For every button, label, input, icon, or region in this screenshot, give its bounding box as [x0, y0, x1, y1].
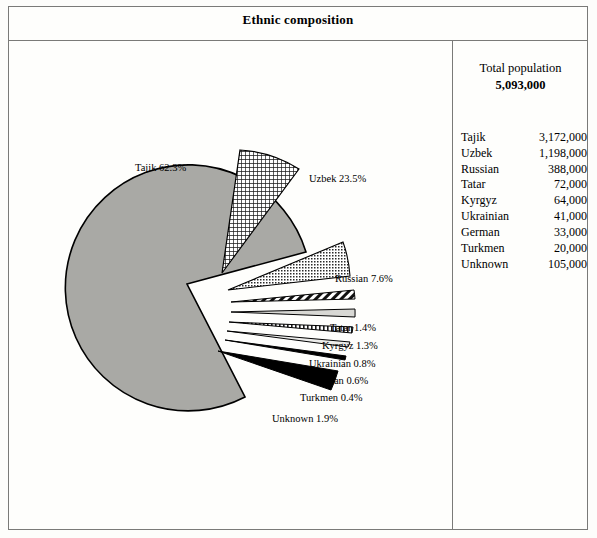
row-population: 20,000: [524, 241, 587, 257]
total-population-block: Total population 5,093,000: [453, 61, 588, 94]
row-population: 33,000: [524, 225, 587, 241]
table-row: Unknown 105,000: [461, 257, 587, 273]
population-table: Tajik 3,172,000 Uzbek 1,198,000 Russian …: [461, 130, 587, 272]
row-group-name: Ukrainian: [461, 209, 524, 225]
row-population: 41,000: [524, 209, 587, 225]
table-row: Tajik 3,172,000: [461, 130, 587, 146]
row-group-name: Turkmen: [461, 241, 524, 257]
row-group-name: Kyrgyz: [461, 193, 524, 209]
row-population: 3,172,000: [524, 130, 587, 146]
row-group-name: Unknown: [461, 257, 524, 273]
slice-label-turkmen: Turkmen 0.4%: [300, 393, 363, 404]
page-title: Ethnic composition: [8, 12, 588, 28]
table-row: German 33,000: [461, 225, 587, 241]
row-group-name: German: [461, 225, 524, 241]
ethnic-composition-pie-chart: [9, 41, 452, 529]
slice-label-german: German 0.6%: [310, 376, 368, 387]
row-group-name: Russian: [461, 162, 524, 178]
slice-label-ukrainian: Ukrainian 0.8%: [309, 359, 375, 370]
slice-label-russian: Russian 7.6%: [335, 274, 393, 285]
slice-label-tajik: Tajik 62.3%: [135, 163, 186, 174]
table-row: Tatar 72,000: [461, 177, 587, 193]
row-group-name: Uzbek: [461, 146, 524, 162]
total-population-value: 5,093,000: [453, 77, 588, 94]
slice-label-kyrgyz: Kyrgyz 1.3%: [322, 341, 378, 352]
table-row: Uzbek 1,198,000: [461, 146, 587, 162]
pie-slice-tatar[interactable]: [231, 290, 355, 302]
slice-label-tatar: Tatar 1.4%: [330, 323, 376, 334]
total-population-label: Total population: [453, 61, 588, 77]
slice-label-uzbek: Uzbek 23.5%: [309, 174, 366, 185]
pie-chart-area: Tajik 62.3% Uzbek 23.5% Russian 7.6% Tat…: [9, 41, 452, 529]
row-group-name: Tajik: [461, 130, 524, 146]
row-population: 105,000: [524, 257, 587, 273]
table-row: Russian 388,000: [461, 162, 587, 178]
table-row: Ukrainian 41,000: [461, 209, 587, 225]
row-group-name: Tatar: [461, 177, 524, 193]
population-table-body: Tajik 3,172,000 Uzbek 1,198,000 Russian …: [461, 130, 587, 272]
pie-slice-kyrgyz[interactable]: [231, 309, 355, 317]
row-population: 1,198,000: [524, 146, 587, 162]
row-population: 64,000: [524, 193, 587, 209]
table-row: Kyrgyz 64,000: [461, 193, 587, 209]
population-panel: Total population 5,093,000 Tajik 3,172,0…: [453, 41, 588, 529]
page-root: Ethnic composition: [0, 0, 597, 538]
table-row: Turkmen 20,000: [461, 241, 587, 257]
slice-label-unknown: Unknown 1.9%: [272, 414, 338, 425]
row-population: 72,000: [524, 177, 587, 193]
row-population: 388,000: [524, 162, 587, 178]
